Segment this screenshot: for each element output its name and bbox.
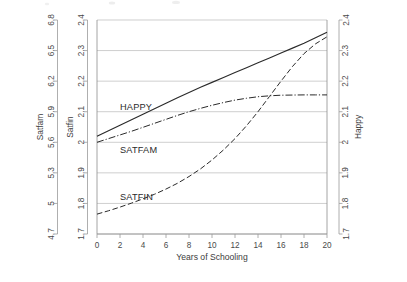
satfin-tick-label-6: 1.8	[77, 197, 86, 209]
chart-canvas: 2.42.32.22.121.91.81.7Satfin6.86.56.25.9…	[0, 0, 407, 282]
x-tick-label-10: 20	[322, 241, 332, 250]
satfam-tick-label-4: 5.6	[47, 136, 56, 148]
happy-tick-label-5: 1.9	[342, 167, 351, 179]
scan-artifact	[172, 1, 180, 4]
series-label-satfam: SATFAM	[120, 145, 157, 155]
happy-axis-title: Happy	[353, 114, 363, 139]
x-tick-label-6: 12	[230, 241, 240, 250]
happy-tick-label-3: 2.1	[342, 106, 351, 118]
scan-artifact	[45, 3, 49, 5]
happy-tick-label-6: 1.8	[342, 197, 351, 209]
satfam-tick-label-5: 5.3	[47, 167, 56, 179]
satfin-tick-label-5: 1.9	[77, 167, 86, 179]
happy-tick-label-2: 2.2	[342, 75, 351, 87]
satfin-tick-label-3: 2.1	[77, 106, 86, 118]
x-tick-label-4: 8	[187, 241, 192, 250]
series-line-happy	[97, 32, 327, 136]
satfam-tick-label-3: 5.9	[47, 106, 56, 118]
series-line-satfin	[97, 37, 327, 214]
satfin-axis-title: Satfin	[65, 116, 75, 138]
x-tick-label-3: 6	[164, 241, 169, 250]
happy-tick-label-7: 1.7	[342, 228, 351, 240]
satfam-tick-label-2: 6.2	[47, 75, 56, 87]
x-tick-label-0: 0	[95, 241, 100, 250]
x-tick-label-1: 2	[118, 241, 123, 250]
satfam-axis-title: Satfam	[35, 114, 45, 141]
series-label-happy: HAPPY	[120, 102, 152, 112]
x-tick-label-9: 18	[299, 241, 309, 250]
x-tick-label-8: 16	[276, 241, 286, 250]
scan-artifact	[109, 2, 115, 5]
chart-figure: 2.42.32.22.121.91.81.7Satfin6.86.56.25.9…	[0, 0, 407, 282]
happy-tick-label-4: 2	[342, 140, 351, 145]
satfam-tick-label-0: 6.8	[47, 14, 56, 26]
satfin-tick-label-4: 2	[77, 140, 86, 145]
satfin-tick-label-0: 2.4	[77, 14, 86, 26]
satfam-tick-label-6: 5	[47, 201, 56, 206]
happy-tick-label-0: 2.4	[342, 14, 351, 26]
x-tick-label-2: 4	[141, 241, 146, 250]
happy-tick-label-1: 2.3	[342, 44, 351, 56]
satfin-tick-label-2: 2.2	[77, 75, 86, 87]
satfam-tick-label-1: 6.5	[47, 44, 56, 56]
satfam-tick-label-7: 4.7	[47, 228, 56, 240]
series-label-satfin: SATFIN	[120, 192, 153, 202]
satfin-tick-label-7: 1.7	[77, 228, 86, 240]
satfin-tick-label-1: 2.3	[77, 44, 86, 56]
x-tick-label-7: 14	[253, 241, 263, 250]
x-tick-label-5: 10	[207, 241, 217, 250]
x-axis-title: Years of Schooling	[176, 252, 248, 262]
